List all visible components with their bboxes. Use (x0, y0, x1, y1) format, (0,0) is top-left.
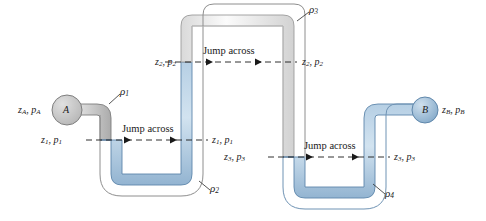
jump-across-caption-1: Jump across (122, 124, 174, 135)
label-z2-p2-right: z2, p2 (302, 57, 323, 68)
reservoir-a-label: A (63, 105, 69, 115)
reservoir-b-label: B (422, 105, 428, 115)
label-z3-p3-right: z3, p3 (394, 152, 415, 163)
manometer-figure (0, 0, 486, 221)
jump-across-caption-2: Jump across (203, 46, 255, 57)
label-za-pa: zA, pA (18, 105, 40, 116)
label-rho4: ρ4 (385, 188, 394, 200)
label-z1-p1-left: z1, p1 (41, 135, 62, 146)
label-zb-pb: zB, pB (442, 105, 464, 116)
label-rho3: ρ3 (309, 4, 318, 16)
tube-middle-assembly (181, 4, 305, 157)
label-z1-p1-right: z1, p1 (212, 135, 233, 146)
label-rho1: ρ1 (120, 86, 129, 98)
label-rho2: ρ2 (210, 183, 219, 195)
pipe-segment-rho3 (181, 15, 294, 157)
leader-rho1 (109, 94, 120, 104)
leader-rho3 (297, 12, 309, 21)
label-z2-p2-left: z2, p2 (155, 57, 176, 68)
label-z3-p3-left: z3, p3 (224, 152, 245, 163)
jump-across-caption-3: Jump across (304, 141, 356, 152)
